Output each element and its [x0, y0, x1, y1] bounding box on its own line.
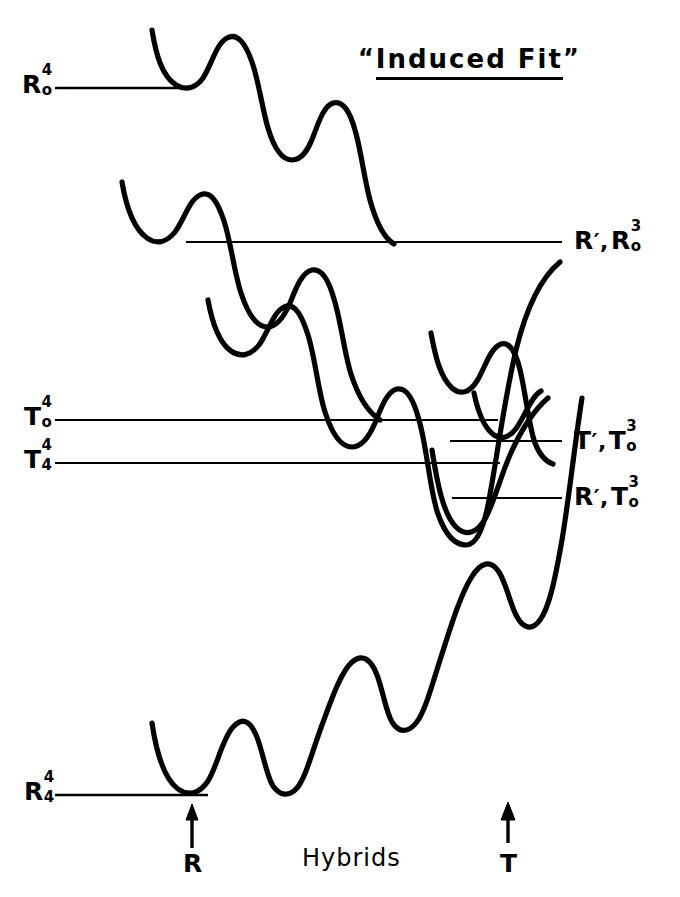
- state-label-R1-R0-3-base: R: [574, 228, 594, 253]
- axis-tick-label-T: T: [500, 851, 518, 876]
- state-label-T4-4-sup: 4: [42, 438, 53, 453]
- state-label-R0-4-base: R: [22, 72, 42, 97]
- state-label-T1-T0-3-base: T: [574, 428, 592, 453]
- state-label-R1-T0-3-base: R: [574, 484, 594, 509]
- state-label-R1-T0-3-sub: o: [629, 495, 640, 510]
- state-label-R1-T0-3: R′,T3o: [574, 484, 629, 509]
- state-label-R0-4-sub: o: [42, 83, 53, 98]
- title-text: Induced Fit: [376, 44, 563, 80]
- state-label-R0-4-sup: 4: [42, 63, 53, 78]
- state-label-T4-4-sub: 4: [42, 458, 53, 473]
- induced-fit-energy-diagram: “Induced Fit” R4o R′,R3o T4o T44 T′,T3o …: [0, 0, 680, 897]
- state-label-R1-R0-3-sub: o: [631, 239, 642, 254]
- energy-curve-5: [152, 398, 582, 794]
- state-label-R0-4: R4o: [22, 72, 42, 97]
- state-label-T4-4-base: T: [24, 447, 42, 472]
- state-label-T0-4-sup: 4: [42, 395, 53, 410]
- axis-tick-label-R: R: [183, 851, 203, 876]
- state-label-T1-T0-3-base2: T: [609, 428, 627, 453]
- state-label-T1-T0-3-sup: 3: [626, 419, 637, 434]
- state-label-R1-R0-3-comma: ,: [600, 229, 609, 254]
- title-close-quote: ”: [563, 44, 581, 72]
- state-label-R1-R0-3-base2: R: [611, 228, 631, 253]
- potential-energy-curves: [122, 30, 582, 794]
- energy-curve-2: [122, 182, 380, 420]
- energy-level-lines: [55, 88, 562, 795]
- state-label-R4-4-sup: 4: [44, 770, 55, 785]
- state-label-R4-4: R44: [24, 779, 44, 804]
- state-label-T1-T0-3: T′,T3o: [574, 428, 626, 453]
- figure-title: “Induced Fit”: [358, 44, 581, 80]
- x-axis-label: Hybrids: [302, 846, 401, 870]
- state-label-R4-4-sub: 4: [44, 790, 55, 805]
- energy-curve-3: [208, 262, 560, 545]
- state-label-T0-4: T4o: [24, 404, 42, 429]
- state-label-T0-4-base: T: [24, 404, 42, 429]
- state-label-R1-T0-3-base2: T: [611, 484, 629, 509]
- state-label-T0-4-sub: o: [42, 415, 53, 430]
- title-open-quote: “: [358, 44, 376, 72]
- state-label-T4-4: T44: [24, 447, 42, 472]
- state-label-T1-T0-3-comma: ,: [598, 429, 607, 454]
- energy-curve-5b: [432, 398, 548, 533]
- state-label-R1-T0-3-comma: ,: [600, 485, 609, 510]
- state-label-R1-T0-3-sup: 3: [629, 475, 640, 490]
- state-label-R1-R0-3: R′,R3o: [574, 228, 631, 253]
- state-label-T1-T0-3-sub: o: [626, 439, 637, 454]
- state-label-R4-4-base: R: [24, 779, 44, 804]
- state-label-R1-R0-3-sup: 3: [631, 219, 642, 234]
